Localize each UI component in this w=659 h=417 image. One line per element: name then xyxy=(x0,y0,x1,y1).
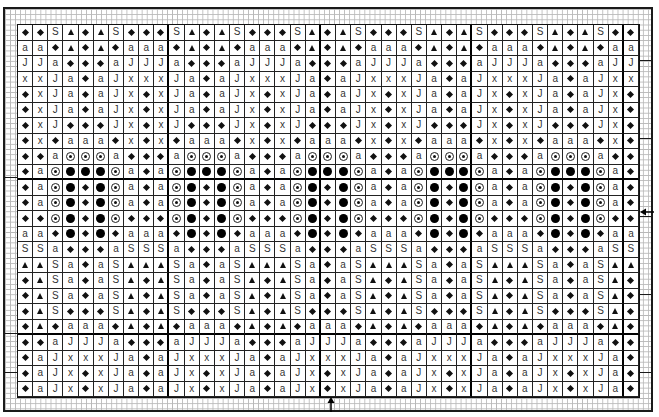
stitch-cell: a xyxy=(533,242,548,258)
stitch-cell: J xyxy=(412,366,427,382)
letter-a-symbol: a xyxy=(386,229,392,239)
stitch-cell: a xyxy=(154,196,169,212)
stitch-cell: a xyxy=(548,134,563,150)
stitch-cell: x xyxy=(154,134,169,150)
letter-s-symbol: S xyxy=(294,260,301,270)
diamond-icon xyxy=(264,370,271,377)
diamond-icon xyxy=(264,323,271,330)
stitch-cell: J xyxy=(291,351,306,367)
stitch-cell xyxy=(275,320,290,336)
stitch-cell: a xyxy=(63,320,78,336)
diamond-icon xyxy=(203,261,210,268)
stitch-cell xyxy=(457,149,472,165)
stitch-cell: a xyxy=(351,56,366,72)
stitch-cell: a xyxy=(154,351,169,367)
stitch-cell xyxy=(94,211,109,227)
letter-j-symbol: J xyxy=(477,353,482,363)
stitch-cell xyxy=(63,227,78,243)
stitch-cell: a xyxy=(548,72,563,88)
letter-j-symbol: J xyxy=(538,120,543,130)
letter-a-symbol: a xyxy=(98,136,104,146)
stitch-cell xyxy=(382,103,397,119)
circled-dot-icon xyxy=(475,198,484,207)
diamond-icon xyxy=(22,184,29,191)
stitch-cell: J xyxy=(366,56,381,72)
letter-j-symbol: J xyxy=(538,384,543,394)
letter-j-symbol: J xyxy=(204,337,209,347)
letter-j-symbol: J xyxy=(538,105,543,115)
diamond-icon xyxy=(143,184,150,191)
stitch-cell xyxy=(185,41,200,57)
diamond-icon xyxy=(128,153,135,160)
letter-a-symbol: a xyxy=(128,166,134,176)
letter-x-symbol: x xyxy=(158,105,163,115)
stitch-cell: a xyxy=(215,87,230,103)
stitch-cell xyxy=(442,227,457,243)
letter-s-symbol: S xyxy=(52,275,59,285)
letter-j-symbol: J xyxy=(23,58,28,68)
triangle-icon xyxy=(280,323,286,329)
stitch-cell: J xyxy=(594,87,609,103)
stitch-cell: a xyxy=(124,351,139,367)
triangle-icon xyxy=(249,277,255,283)
stitch-cell xyxy=(33,335,48,351)
letter-s-symbol: S xyxy=(173,306,180,316)
stitch-cell xyxy=(563,273,578,289)
stitch-cell xyxy=(321,103,336,119)
stitch-cell: a xyxy=(33,227,48,243)
stitch-cell xyxy=(321,242,336,258)
letter-a-symbol: a xyxy=(174,58,180,68)
diamond-icon xyxy=(340,122,347,129)
diamond-icon xyxy=(627,199,634,206)
circled-dot-icon xyxy=(233,183,242,192)
diamond-icon xyxy=(627,29,634,36)
stitch-cell: x xyxy=(548,351,563,367)
circled-dot-icon xyxy=(111,198,120,207)
stitch-cell xyxy=(18,165,33,181)
diamond-icon xyxy=(22,308,29,315)
stitch-cell xyxy=(48,165,63,181)
stitch-cell: x xyxy=(139,72,154,88)
stitch-cell xyxy=(18,351,33,367)
letter-a-symbol: a xyxy=(204,136,210,146)
stitch-cell: J xyxy=(594,103,609,119)
diamond-icon xyxy=(627,137,634,144)
stitch-cell: x xyxy=(397,134,412,150)
stitch-cell: S xyxy=(230,289,245,305)
letter-j-symbol: J xyxy=(325,337,330,347)
stitch-cell: a xyxy=(609,180,624,196)
letter-a-symbol: a xyxy=(401,182,407,192)
triangle-icon xyxy=(401,323,407,329)
stitch-cell: a xyxy=(321,134,336,150)
stitch-cell xyxy=(306,227,321,243)
letter-s-symbol: S xyxy=(476,27,483,37)
circled-dot-icon xyxy=(536,183,545,192)
stitch-cell: S xyxy=(291,258,306,274)
stitch-cell: J xyxy=(169,103,184,119)
letter-a-symbol: a xyxy=(158,353,164,363)
stitch-cell xyxy=(397,289,412,305)
stitch-cell xyxy=(275,258,290,274)
stitch-cell: J xyxy=(533,87,548,103)
stitch-cell xyxy=(351,180,366,196)
stitch-cell: a xyxy=(427,258,442,274)
diamond-icon xyxy=(385,292,392,299)
stitch-cell: S xyxy=(48,258,63,274)
letter-x-symbol: x xyxy=(583,353,588,363)
letter-a-symbol: a xyxy=(310,275,316,285)
diamond-icon xyxy=(567,385,574,392)
letter-x-symbol: x xyxy=(250,89,255,99)
stitch-cell: a xyxy=(63,87,78,103)
diamond-icon xyxy=(506,199,513,206)
letter-s-symbol: S xyxy=(234,291,241,301)
stitch-cell: a xyxy=(594,149,609,165)
letter-x-symbol: x xyxy=(401,136,406,146)
stitch-cell xyxy=(200,382,215,398)
stitch-cell: a xyxy=(245,227,260,243)
letter-a-symbol: a xyxy=(356,337,362,347)
stitch-cell xyxy=(548,149,563,165)
stitch-cell: J xyxy=(230,72,245,88)
stitch-cell: J xyxy=(503,56,518,72)
stitch-cell xyxy=(63,41,78,57)
letter-x-symbol: x xyxy=(158,89,163,99)
